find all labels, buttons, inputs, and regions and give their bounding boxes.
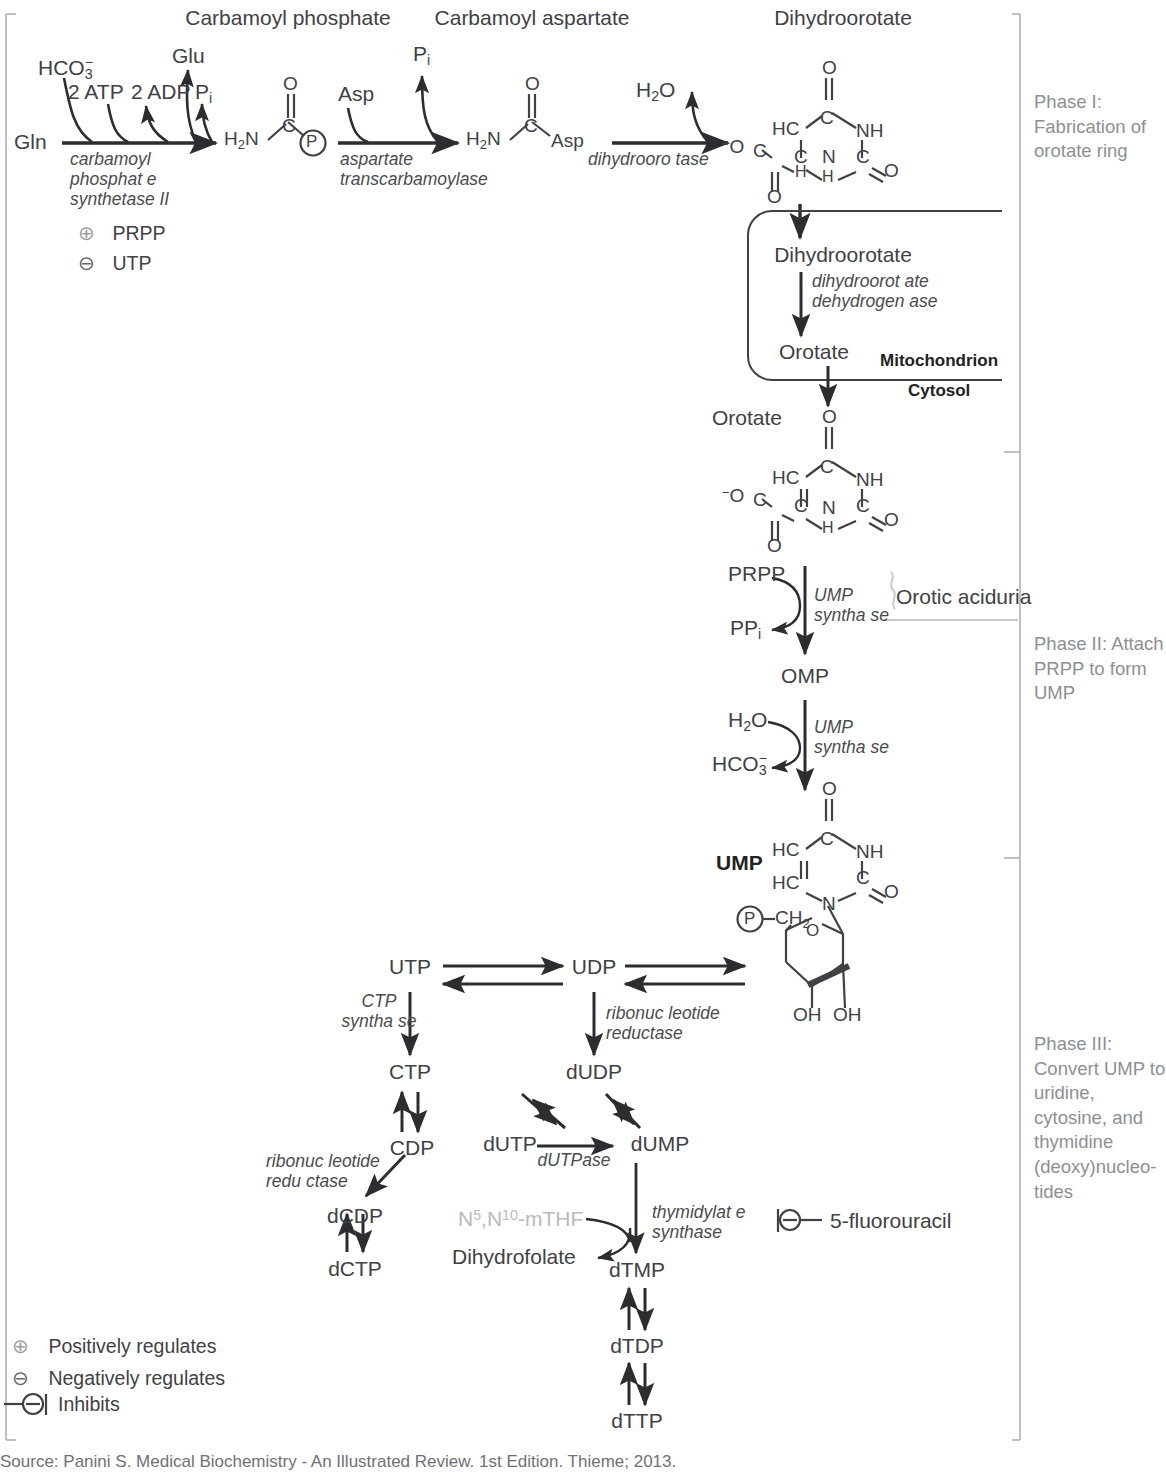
minus-circle-icon: ⊖ <box>12 1367 29 1389</box>
orotate-o-right: O <box>884 509 899 531</box>
substrate-h2o-1: H2O <box>636 78 675 104</box>
ump-c2: C <box>856 867 870 889</box>
enzyme-ctp-synthase: CTPsyntha se <box>342 992 417 1032</box>
dho-o-right: O <box>884 160 899 182</box>
metabolite-dudp: dUDP <box>566 1060 622 1084</box>
legend-positively-regulates: ⊕ Positively regulates <box>12 1335 216 1358</box>
dho-minus-o: −O <box>722 136 744 158</box>
substrate-hco3: HCO3− <box>38 56 93 82</box>
metabolite-ctp: CTP <box>389 1060 431 1084</box>
dho-nh: NH <box>856 120 883 142</box>
ump-c4: C <box>820 828 834 850</box>
dho-carboxyl-c: C <box>753 140 767 162</box>
substrate-hco3-2: HCO3− <box>712 752 767 778</box>
struct-cp-h2n: H2N <box>224 128 259 152</box>
metabolite-dihydrofolate: Dihydrofolate <box>452 1245 576 1269</box>
orotate-carboxyl-c: C <box>753 489 767 511</box>
drug-5-fluorouracil: 5-fluorouracil <box>830 1209 951 1233</box>
disease-orotic-aciduria: Orotic aciduria <box>896 585 1031 609</box>
orotate-c5: C <box>794 495 808 517</box>
struct-ca-o: O <box>525 73 540 95</box>
enzyme-thymidylate-synthase: thymidylat esynthase <box>652 1203 745 1243</box>
metabolite-dttp: dTTP <box>611 1409 662 1433</box>
ump-o-top: O <box>822 778 837 800</box>
title-carbamoyl-phosphate: Carbamoyl phosphate <box>185 6 390 30</box>
ump-hc-5: HC <box>772 839 799 861</box>
orotate-c4: C <box>820 456 834 478</box>
metabolite-dihydroorotate-mito: Dihydroorotate <box>774 243 912 267</box>
metabolite-cdp: CDP <box>390 1136 434 1160</box>
orotate-c2: C <box>856 495 870 517</box>
orotate-o-top: O <box>822 406 837 428</box>
minus-circle-icon: ⊖ <box>78 252 95 274</box>
ump-ribose-o: O <box>806 921 819 941</box>
enzyme-ump-synthase-1: UMPsyntha se <box>814 586 889 626</box>
phase-3-label: Phase III: Convert UMP to uridine, cytos… <box>1034 1032 1166 1204</box>
legend-negatively-regulates: ⊖ Negatively regulates <box>12 1367 225 1390</box>
enzyme-dutpase: dUTPase <box>538 1151 611 1171</box>
phase-2-label: Phase II: Attach PRPP to form UMP <box>1034 632 1166 706</box>
orotate-h1: H <box>822 519 834 537</box>
dho-o-top: O <box>822 57 837 79</box>
compartment-mitochondrion: Mitochondrion <box>880 351 998 370</box>
substrate-atp: 2 ATP <box>68 80 124 104</box>
orotate-carboxyl-o: O <box>767 535 782 557</box>
regulator-utp: ⊖ UTP <box>78 252 151 275</box>
metabolite-dcdp: dCDP <box>327 1204 383 1228</box>
dho-carboxyl-o: O <box>767 186 782 208</box>
struct-ca-h2n: H2N <box>466 128 501 152</box>
substrate-asp-1: Asp <box>338 82 374 106</box>
substrate-glu: Glu <box>172 44 205 68</box>
compartment-cytosol: Cytosol <box>908 381 970 400</box>
title-dihydroorotate: Dihydroorotate <box>774 6 912 30</box>
substrate-prpp: PRPP <box>728 562 785 586</box>
substrate-ppi: PPi <box>730 616 761 642</box>
regulator-prpp: ⊕ PRPP <box>78 222 166 245</box>
orotate-nh: NH <box>856 469 883 491</box>
metabolite-dtdp: dTDP <box>610 1334 664 1358</box>
dho-h1: H <box>822 168 834 186</box>
plus-circle-icon: ⊕ <box>12 1335 29 1357</box>
metabolite-dutp: dUTP <box>483 1132 537 1156</box>
substrate-pi-1: Pi <box>195 80 212 106</box>
metabolite-omp: OMP <box>781 664 829 688</box>
ump-ch2: CH2 <box>775 907 810 931</box>
ump-phosphate-icon: P <box>744 909 755 929</box>
metabolite-dump: dUMP <box>631 1132 689 1156</box>
metabolite-dtmp: dTMP <box>609 1258 665 1282</box>
plus-circle-icon: ⊕ <box>78 222 95 244</box>
metabolite-orotate-mito: Orotate <box>779 340 849 364</box>
substrate-gln: Gln <box>14 130 47 154</box>
substrate-adp: 2 ADP <box>131 80 191 104</box>
struct-cp-o: O <box>283 73 298 95</box>
metabolite-udp: UDP <box>572 955 616 979</box>
enzyme-cps2: carbamoylphosphat esynthetase II <box>70 150 169 210</box>
ump-oh-right: OH <box>833 1004 862 1026</box>
substrate-h2o-2: H2O <box>728 708 767 734</box>
dho-n1: N <box>822 146 836 168</box>
struct-ca-asp: Asp <box>551 130 584 152</box>
orotate-hc: HC <box>772 467 799 489</box>
enzyme-ump-synthase-2: UMPsyntha se <box>814 718 889 758</box>
ump-hc-6: HC <box>772 872 799 894</box>
ump-nh: NH <box>856 841 883 863</box>
dho-c4: C <box>820 107 834 129</box>
enzyme-dihydroorotate-dehydrogenase: dihydroorot atedehydrogen ase <box>812 272 938 312</box>
enzyme-aspartate-transcarbamoylase: aspartatetranscarbamoylase <box>340 150 488 190</box>
figure-source: Source: Panini S. Medical Biochemistry -… <box>0 1452 676 1472</box>
orotate-n1: N <box>822 497 836 519</box>
dho-hc: HC <box>772 118 799 140</box>
ump-oh-left: OH <box>793 1004 822 1026</box>
metabolite-utp: UTP <box>389 955 431 979</box>
struct-cp-c: C <box>282 115 296 137</box>
metabolite-mthf: N5,N10-mTHF <box>458 1207 583 1231</box>
ump-o-right: O <box>884 881 899 903</box>
struct-cp-phosphate-icon: P <box>306 132 317 152</box>
enzyme-rnr-udp: ribonuc leotidereductase <box>606 1004 720 1044</box>
enzyme-dihydroorotase: dihydrooro tase <box>588 150 709 170</box>
title-carbamoyl-aspartate: Carbamoyl aspartate <box>435 6 630 30</box>
metabolite-orotate-cytosol: Orotate <box>712 406 782 430</box>
ump-n1: N <box>822 893 836 915</box>
struct-ca-c: C <box>524 115 538 137</box>
